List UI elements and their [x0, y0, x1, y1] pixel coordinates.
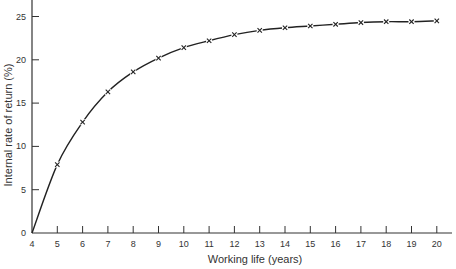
x-axis-title: Working life (years) [208, 253, 303, 265]
y-tick-label: 25 [16, 12, 26, 22]
x-tick-label: 6 [80, 239, 85, 249]
x-marker-icon [383, 19, 389, 25]
x-marker-icon [333, 21, 339, 27]
x-marker-icon [434, 18, 440, 24]
tick-marks: 05101520254567891011121314151617181920 [16, 12, 442, 250]
x-marker-icon [231, 32, 237, 38]
x-tick-label: 7 [105, 239, 110, 249]
x-marker-icon [282, 25, 288, 31]
x-tick-label: 14 [280, 239, 290, 249]
y-axis-title: Internal rate of return (%) [2, 64, 14, 187]
x-tick-label: 18 [381, 239, 391, 249]
irr-line [32, 21, 437, 233]
x-marker-icon [130, 69, 136, 75]
y-tick-label: 10 [16, 141, 26, 151]
x-marker-icon [409, 19, 415, 25]
x-marker-icon [156, 55, 162, 61]
x-marker-icon [54, 162, 60, 168]
x-tick-label: 8 [131, 239, 136, 249]
x-tick-label: 11 [204, 239, 213, 249]
x-tick-label: 9 [156, 239, 161, 249]
x-marker-icon [181, 45, 187, 51]
x-tick-label: 20 [432, 239, 442, 249]
x-tick-label: 15 [305, 239, 315, 249]
x-marker-icon [307, 23, 313, 29]
x-tick-label: 12 [229, 239, 239, 249]
x-marker-icon [105, 89, 111, 95]
y-tick-label: 5 [21, 185, 26, 195]
irr-chart: 05101520254567891011121314151617181920 W… [0, 0, 456, 269]
x-marker-icon [358, 20, 364, 26]
x-tick-label: 5 [55, 239, 60, 249]
y-tick-label: 20 [16, 55, 26, 65]
x-marker-icon [80, 119, 86, 125]
data-markers [54, 18, 440, 168]
x-tick-label: 4 [29, 239, 34, 249]
x-marker-icon [206, 38, 212, 44]
x-tick-label: 16 [331, 239, 341, 249]
data-curve [32, 21, 437, 233]
x-tick-label: 19 [406, 239, 416, 249]
x-tick-label: 13 [255, 239, 265, 249]
y-tick-label: 0 [21, 228, 26, 238]
x-marker-icon [257, 27, 263, 33]
x-tick-label: 10 [179, 239, 189, 249]
x-tick-label: 17 [356, 239, 366, 249]
y-tick-label: 15 [16, 98, 26, 108]
axes [32, 0, 452, 233]
